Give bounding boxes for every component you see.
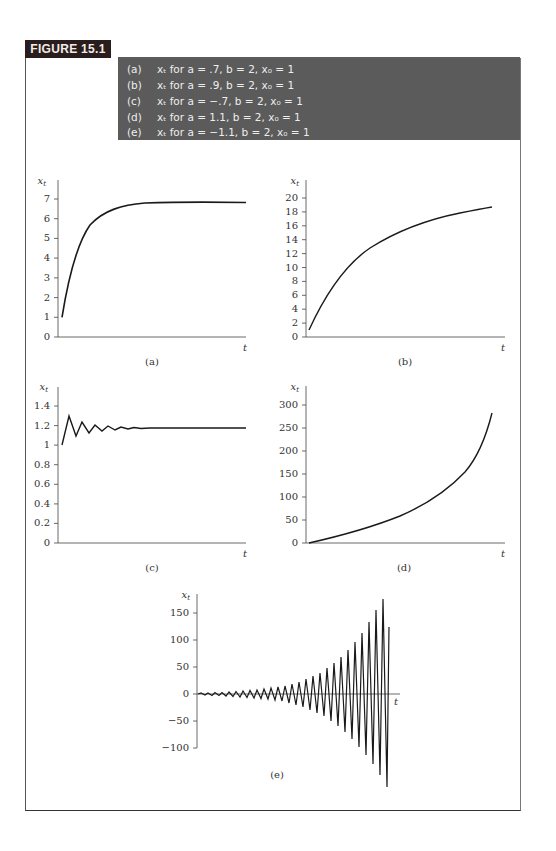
y-axis-label: xt	[182, 589, 191, 602]
x-axis-label: t	[501, 342, 506, 353]
svg-text:−100: −100	[162, 742, 189, 753]
svg-text:150: 150	[279, 468, 298, 479]
chart-panel-c: xt 0 0.2 0.4 0.6 0.8 1 1.2 1.4 t (c)	[34, 381, 248, 573]
svg-text:0: 0	[44, 331, 50, 342]
svg-text:2: 2	[292, 317, 298, 328]
y-ticks: −100 −50 0 50 100 150	[162, 607, 197, 753]
x-axis-label: t	[243, 548, 248, 559]
svg-text:0.4: 0.4	[34, 498, 50, 509]
svg-text:200: 200	[279, 445, 298, 456]
y-ticks: 0 1 2 3 4 5 6 7	[44, 193, 58, 342]
svg-text:100: 100	[170, 634, 189, 645]
series-line-b	[309, 207, 492, 330]
y-axis-label: xt	[291, 381, 300, 394]
svg-text:0.8: 0.8	[34, 459, 50, 470]
svg-text:50: 50	[176, 661, 189, 672]
series-line-c	[62, 416, 246, 445]
x-axis-label: t	[394, 696, 399, 707]
svg-text:2: 2	[44, 292, 50, 303]
svg-text:3: 3	[44, 272, 50, 283]
panel-label: (a)	[145, 356, 159, 367]
y-axis-label: xt	[291, 175, 300, 188]
svg-text:6: 6	[44, 213, 50, 224]
svg-text:14: 14	[285, 234, 298, 245]
svg-text:4: 4	[44, 252, 50, 263]
svg-text:100: 100	[279, 491, 298, 502]
panel-label: (b)	[398, 356, 412, 367]
svg-text:18: 18	[285, 206, 298, 217]
y-axis-label: xt	[40, 381, 49, 394]
svg-text:16: 16	[285, 220, 298, 231]
svg-text:7: 7	[44, 193, 50, 204]
svg-text:0: 0	[44, 537, 50, 548]
svg-text:12: 12	[285, 248, 298, 259]
svg-text:10: 10	[285, 262, 298, 273]
panel-label: (e)	[270, 769, 284, 780]
chart-panel-a: xt 0 1 2 3 4 5 6 7 t (a)	[38, 175, 248, 367]
chart-panel-e: xt −100 −50 0 50 100 150 t (e)	[162, 589, 400, 787]
svg-text:0: 0	[183, 688, 189, 699]
svg-text:1.2: 1.2	[34, 420, 50, 431]
charts-canvas: xt 0 1 2 3 4 5 6 7 t (a) xt 0 2 4 6 8 10…	[0, 0, 556, 851]
y-ticks: 0 50 100 150 200 250 300	[279, 399, 306, 548]
svg-text:0.6: 0.6	[34, 478, 50, 489]
svg-text:−50: −50	[168, 715, 189, 726]
svg-text:5: 5	[44, 232, 50, 243]
svg-text:0: 0	[292, 537, 298, 548]
panel-label: (c)	[145, 562, 159, 573]
chart-panel-b: xt 0 2 4 6 8 10 12 14 16 18 20 t (b)	[285, 175, 506, 367]
y-ticks: 0 2 4 6 8 10 12 14 16 18 20	[285, 192, 306, 342]
svg-text:1: 1	[44, 439, 50, 450]
y-axis-label: xt	[38, 175, 47, 188]
svg-text:150: 150	[170, 607, 189, 618]
panel-label: (d)	[397, 562, 411, 573]
svg-text:8: 8	[292, 275, 298, 286]
svg-text:1.4: 1.4	[34, 400, 50, 411]
x-axis-label: t	[243, 342, 248, 353]
y-ticks: 0 0.2 0.4 0.6 0.8 1 1.2 1.4	[34, 400, 58, 548]
x-axis-label: t	[501, 548, 506, 559]
svg-text:50: 50	[285, 514, 298, 525]
series-line-a	[62, 202, 246, 317]
svg-text:1: 1	[44, 311, 50, 322]
svg-text:300: 300	[279, 399, 298, 410]
svg-text:0.2: 0.2	[34, 517, 50, 528]
svg-text:250: 250	[279, 422, 298, 433]
svg-text:4: 4	[292, 303, 298, 314]
svg-text:6: 6	[292, 289, 298, 300]
svg-text:0: 0	[292, 331, 298, 342]
series-line-d	[309, 413, 492, 543]
chart-panel-d: xt 0 50 100 150 200 250 300 t (d)	[279, 381, 506, 573]
series-line-e	[198, 599, 389, 787]
svg-text:20: 20	[285, 192, 298, 203]
